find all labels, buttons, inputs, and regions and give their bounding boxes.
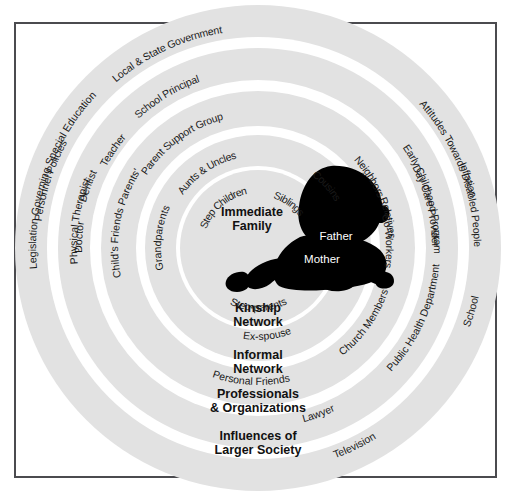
center-label-mother: Mother — [304, 253, 340, 265]
ring-member-label: Doctor — [72, 220, 86, 253]
ring-title: Network — [233, 315, 282, 329]
ring-title: Family — [232, 219, 272, 233]
concentric-rings-diagram: ImmediateFamilyKinshipNetworkInformalNet… — [0, 0, 511, 497]
ring-title: Influences of — [219, 429, 297, 443]
ring-title: Professionals — [217, 387, 299, 401]
ring-title: Informal — [233, 348, 282, 362]
diagram-canvas: ImmediateFamilyKinshipNetworkInformalNet… — [0, 0, 511, 497]
ring-title: Larger Society — [215, 443, 302, 457]
ring-title: Immediate — [221, 205, 283, 219]
ring-title: & Organizations — [210, 401, 306, 415]
center-label-father: Father — [319, 230, 352, 242]
